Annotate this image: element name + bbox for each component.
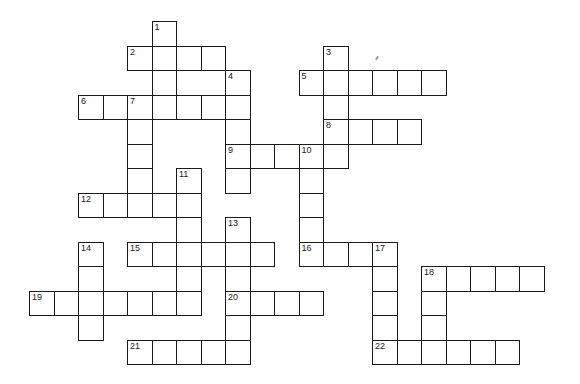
clue-number: 5 [302,71,307,81]
crossword-cell[interactable] [176,242,202,268]
crossword-cell[interactable]: 16 [299,242,325,268]
crossword-cell[interactable]: 12 [78,193,104,219]
crossword-cell[interactable] [299,217,325,243]
crossword-cell[interactable]: 19 [29,291,55,317]
crossword-cell[interactable] [470,340,496,366]
crossword-cell[interactable]: 20 [225,291,251,317]
crossword-cell[interactable] [323,242,349,268]
crossword-cell[interactable] [372,291,398,317]
crossword-cell[interactable]: 15 [127,242,153,268]
crossword-cell[interactable] [372,266,398,292]
crossword-cell[interactable] [225,315,251,341]
crossword-cell[interactable] [103,95,129,121]
crossword-cell[interactable] [176,266,202,292]
crossword-cell[interactable]: 14 [78,242,104,268]
crossword-cell[interactable]: 2 [127,46,153,72]
crossword-cell[interactable] [127,193,153,219]
crossword-cell[interactable] [54,291,80,317]
crossword-cell[interactable] [152,193,178,219]
crossword-cell[interactable] [250,144,276,170]
crossword-cell[interactable] [348,70,374,96]
crossword-cell[interactable] [446,266,472,292]
crossword-cell[interactable]: 13 [225,217,251,243]
crossword-cell[interactable] [176,291,202,317]
crossword-cell[interactable]: 4 [225,70,251,96]
crossword-cell[interactable] [323,70,349,96]
crossword-cell[interactable] [225,119,251,145]
crossword-cell[interactable]: 7 [127,95,153,121]
crossword-cell[interactable] [225,340,251,366]
crossword-cell[interactable] [495,340,521,366]
crossword-cell[interactable]: 18 [421,266,447,292]
crossword-cell[interactable]: 21 [127,340,153,366]
crossword-cell[interactable] [348,242,374,268]
crossword-cell[interactable] [470,266,496,292]
crossword-cell[interactable] [250,242,276,268]
crossword-cell[interactable] [127,144,153,170]
crossword-cell[interactable] [103,291,129,317]
crossword-cell[interactable] [274,144,300,170]
crossword-cell[interactable] [250,291,276,317]
crossword-cell[interactable] [299,193,325,219]
crossword-cell[interactable]: 22 [372,340,398,366]
clue-number: 4 [228,71,233,81]
crossword-cell[interactable] [152,70,178,96]
crossword-cell[interactable] [152,340,178,366]
crossword-cell[interactable]: 17 [372,242,398,268]
crossword-cell[interactable] [225,266,251,292]
crossword-cell[interactable] [78,266,104,292]
crossword-cell[interactable] [176,95,202,121]
clue-number: 8 [326,120,331,130]
crossword-cell[interactable] [176,46,202,72]
crossword-cell[interactable] [421,70,447,96]
crossword-cell[interactable] [152,95,178,121]
crossword-cell[interactable]: 8 [323,119,349,145]
crossword-cell[interactable]: 5 [299,70,325,96]
crossword-cell[interactable]: 1 [152,21,178,47]
crossword-cell[interactable] [103,193,129,219]
crossword-cell[interactable] [225,168,251,194]
crossword-cell[interactable]: 10 [299,144,325,170]
crossword-cell[interactable]: 9 [225,144,251,170]
crossword-grid: 12384956710161112132014151722181921 [0,0,580,384]
crossword-cell[interactable] [519,266,545,292]
crossword-cell[interactable] [372,315,398,341]
crossword-cell[interactable] [323,144,349,170]
crossword-cell[interactable] [421,315,447,341]
crossword-cell[interactable] [176,193,202,219]
crossword-cell[interactable] [127,291,153,317]
crossword-cell[interactable] [78,291,104,317]
crossword-cell[interactable] [176,217,202,243]
crossword-cell[interactable] [495,266,521,292]
crossword-cell[interactable] [299,291,325,317]
crossword-cell[interactable] [446,340,472,366]
crossword-cell[interactable] [323,95,349,121]
crossword-cell[interactable] [201,340,227,366]
crossword-cell[interactable] [78,315,104,341]
crossword-cell[interactable] [348,119,374,145]
crossword-cell[interactable] [372,70,398,96]
crossword-cell[interactable] [421,340,447,366]
crossword-cell[interactable] [397,340,423,366]
crossword-cell[interactable] [152,242,178,268]
crossword-cell[interactable] [201,242,227,268]
crossword-cell[interactable]: 11 [176,168,202,194]
crossword-cell[interactable] [225,95,251,121]
crossword-cell[interactable] [397,119,423,145]
crossword-cell[interactable]: 3 [323,46,349,72]
crossword-cell[interactable]: 6 [78,95,104,121]
crossword-cell[interactable] [299,168,325,194]
crossword-cell[interactable] [152,46,178,72]
crossword-cell[interactable] [176,340,202,366]
crossword-cell[interactable] [201,95,227,121]
crossword-cell[interactable] [274,291,300,317]
crossword-cell[interactable] [152,291,178,317]
crossword-cell[interactable] [397,70,423,96]
crossword-cell[interactable] [225,242,251,268]
crossword-cell[interactable] [201,46,227,72]
crossword-cell[interactable] [127,168,153,194]
crossword-cell[interactable] [421,291,447,317]
crossword-cell[interactable] [127,119,153,145]
clue-number: 1 [155,22,160,32]
crossword-cell[interactable] [372,119,398,145]
